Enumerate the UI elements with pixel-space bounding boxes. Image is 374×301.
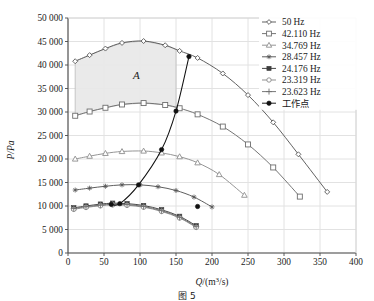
data-point-marker-star	[103, 184, 108, 189]
y-tick-label: 50 000	[37, 13, 63, 23]
data-point-marker-star	[174, 188, 179, 193]
y-tick-label: 0	[58, 248, 63, 258]
legend-item-label: 42.110 Hz	[282, 29, 320, 39]
y-tick-label: 30 000	[37, 107, 63, 117]
data-point-marker-star	[210, 204, 215, 209]
data-point-marker-open-square	[297, 194, 302, 199]
legend-item-label: 23.319 Hz	[282, 75, 321, 85]
data-point-marker-open-square	[141, 101, 146, 106]
data-point-marker-star	[87, 186, 92, 191]
data-point-marker-filled-circle	[159, 147, 163, 151]
x-tick-label: 300	[277, 257, 291, 267]
x-tick-label: 150	[169, 257, 183, 267]
figure-container: 05 00010 00015 00020 00025 00030 00035 0…	[0, 0, 374, 301]
x-tick-label: 200	[205, 257, 219, 267]
y-tick-label: 40 000	[37, 60, 63, 70]
legend-item-label: 34.769 Hz	[282, 41, 321, 51]
y-tick-label: 20 000	[37, 154, 63, 164]
legend-item-label: 50 Hz	[282, 17, 304, 27]
legend-item-label: 24.176 Hz	[282, 64, 321, 74]
data-point-marker-star	[73, 188, 78, 193]
y-tick-label: 35 000	[37, 84, 63, 94]
y-tick-label: 5 000	[42, 225, 63, 235]
y-axis-title-text: P/Pa	[6, 140, 16, 160]
figure-caption: 图 5	[178, 291, 196, 301]
data-point-marker-open-circle	[267, 78, 271, 82]
x-tick-label: 0	[66, 257, 71, 267]
data-point-marker-open-square	[195, 112, 200, 117]
data-point-marker-filled-circle	[109, 202, 113, 206]
data-point-marker-filled-circle	[136, 183, 140, 187]
legend-item-label: 23.623 Hz	[282, 87, 321, 97]
x-tick-label: 50	[99, 257, 109, 267]
x-axis-title: Q/(m3/s)	[195, 276, 228, 288]
data-point-marker-filled-circle	[187, 54, 191, 58]
x-axis-title-unit-close: /s)	[219, 277, 229, 288]
data-point-marker-star	[120, 182, 125, 187]
x-tick-label: 350	[313, 257, 327, 267]
data-point-marker-open-square	[246, 142, 251, 147]
legend-item-label: 28.457 Hz	[282, 52, 321, 62]
fan-performance-chart: 05 00010 00015 00020 00025 00030 00035 0…	[0, 0, 374, 301]
data-point-marker-open-square	[220, 124, 225, 129]
x-tick-label: 400	[349, 257, 363, 267]
data-point-marker-open-square	[87, 109, 92, 114]
y-tick-label: 25 000	[37, 131, 63, 141]
data-point-marker-open-square	[163, 102, 168, 107]
data-point-marker-filled-square	[267, 66, 271, 70]
legend: 50 Hz42.110 Hz34.769 Hz28.457 Hz24.176 H…	[259, 13, 359, 110]
data-point-marker-filled-circle	[267, 101, 271, 105]
x-axis-title-text: Q/(m3/s)	[195, 276, 228, 288]
legend-item-label: 工作点	[282, 98, 309, 109]
y-tick-label: 15 000	[37, 178, 63, 188]
data-point-marker-open-square	[103, 105, 108, 110]
region-a-label: A	[132, 69, 140, 81]
x-axis-title-unit-open: /(m	[202, 277, 216, 288]
data-point-marker-filled-circle	[118, 201, 122, 205]
y-tick-label: 10 000	[37, 201, 63, 211]
data-point-marker-open-square	[73, 113, 78, 118]
data-point-marker-filled-circle	[195, 204, 199, 208]
y-tick-label: 45 000	[37, 37, 63, 47]
data-point-marker-star	[192, 195, 197, 200]
data-point-marker-open-square	[120, 102, 125, 107]
data-point-marker-filled-circle	[174, 109, 178, 113]
x-tick-label: 100	[133, 257, 147, 267]
data-point-marker-star	[156, 184, 161, 189]
x-tick-label: 250	[241, 257, 255, 267]
data-point-marker-open-square	[271, 165, 276, 170]
data-point-marker-star	[267, 54, 272, 59]
data-point-marker-open-square	[267, 31, 272, 36]
y-axis-title: P/Pa	[6, 140, 16, 160]
